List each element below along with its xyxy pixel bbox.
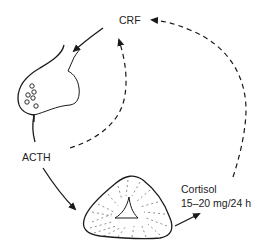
adrenal-gland-icon xyxy=(84,176,172,239)
pituitary-gland-icon xyxy=(18,45,80,122)
cortisol-to-crf-feedback-arrow xyxy=(152,20,246,177)
cortisol-label: Cortisol xyxy=(181,183,217,196)
crf-label: CRF xyxy=(119,14,141,27)
acth-to-pituitary-feedback-arrow xyxy=(70,40,126,148)
feedback-diagram: CRF ACTH Cortisol 15–20 mg/24 h xyxy=(0,0,271,248)
cortisol-rate-label: 15–20 mg/24 h xyxy=(181,197,251,210)
acth-to-adrenal-arrow xyxy=(43,168,75,209)
adrenal-to-cortisol-arrow xyxy=(175,214,199,226)
acth-label: ACTH xyxy=(22,151,51,164)
crf-to-pituitary-arrow xyxy=(74,28,103,51)
pituitary-to-acth-line xyxy=(33,115,35,142)
